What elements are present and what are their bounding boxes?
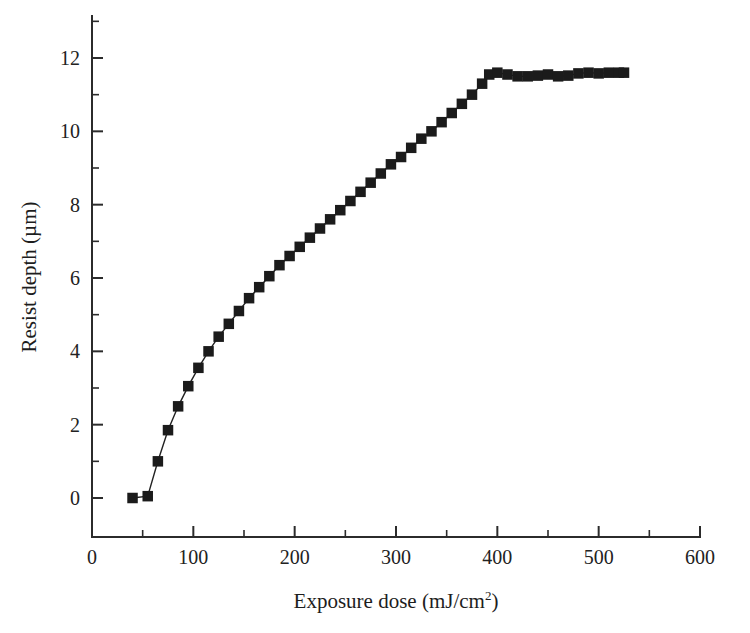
resist-depth-vs-exposure-dose-chart: 0100200300400500600 024681012 Exposure d… [0, 0, 750, 633]
data-point-marker [325, 214, 336, 225]
data-point-marker [294, 242, 305, 253]
series-markers [127, 67, 629, 503]
data-point-marker [492, 67, 503, 78]
data-point-marker [619, 67, 630, 78]
data-point-marker [284, 251, 295, 262]
data-point-marker [193, 363, 204, 374]
data-point-marker [406, 143, 417, 154]
x-tick-label: 500 [584, 546, 614, 568]
data-point-marker [457, 99, 468, 110]
x-tick-label: 100 [178, 546, 208, 568]
data-point-marker [543, 69, 554, 80]
data-point-marker [446, 108, 457, 119]
data-point-marker [563, 70, 574, 81]
x-tick-label: 400 [482, 546, 512, 568]
y-tick-label: 4 [70, 340, 80, 362]
data-point-marker [553, 71, 564, 82]
x-axis-title-suffix: ) [491, 589, 498, 613]
x-axis-ticks [92, 526, 700, 537]
x-axis-title-main: Exposure dose (mJ/cm [294, 589, 485, 613]
y-tick-label: 10 [60, 120, 80, 142]
x-tick-label: 300 [381, 546, 411, 568]
data-point-marker [583, 67, 594, 78]
data-point-marker [467, 89, 478, 100]
data-point-marker [127, 493, 138, 504]
data-point-marker [142, 491, 153, 502]
data-point-marker [573, 68, 584, 79]
y-tick-label: 2 [70, 414, 80, 436]
data-point-marker [213, 331, 224, 342]
y-tick-label: 6 [70, 267, 80, 289]
data-point-marker [502, 69, 512, 80]
data-point-marker [426, 126, 437, 137]
data-point-marker [345, 196, 356, 207]
x-axis-title: Exposure dose (mJ/cm2) [294, 588, 499, 613]
x-axis-tick-labels: 0100200300400500600 [87, 546, 715, 568]
data-point-marker [396, 152, 407, 163]
data-point-marker [436, 117, 447, 128]
data-point-marker [477, 78, 488, 89]
data-point-marker [254, 282, 265, 293]
x-tick-label: 600 [685, 546, 715, 568]
data-point-marker [183, 381, 194, 392]
data-point-marker [416, 133, 427, 144]
series-connector-line [133, 73, 624, 498]
data-point-marker [234, 306, 245, 317]
y-tick-label: 12 [60, 47, 80, 69]
data-series-group [127, 67, 629, 503]
data-point-marker [335, 205, 346, 216]
data-point-marker [153, 456, 164, 467]
data-point-marker [604, 67, 615, 78]
x-tick-label: 200 [280, 546, 310, 568]
data-point-marker [593, 68, 604, 79]
data-point-marker [305, 232, 316, 243]
data-point-marker [315, 223, 326, 234]
x-tick-label: 0 [87, 546, 97, 568]
y-tick-label: 8 [70, 194, 80, 216]
data-point-marker [173, 401, 184, 412]
data-point-marker [386, 159, 397, 170]
figure-container: 0100200300400500600 024681012 Exposure d… [0, 0, 750, 633]
data-point-marker [365, 177, 376, 188]
data-point-marker [163, 425, 174, 436]
data-point-marker [533, 70, 544, 81]
data-point-marker [224, 319, 235, 330]
axis-lines [92, 16, 700, 537]
data-point-marker [203, 346, 214, 357]
y-axis-title: Resist depth (µm) [17, 202, 41, 353]
data-point-marker [376, 168, 387, 179]
data-point-marker [264, 271, 275, 282]
y-axis-ticks [92, 21, 103, 498]
y-axis-tick-labels: 024681012 [60, 47, 80, 509]
data-point-marker [244, 293, 255, 304]
data-point-marker [355, 187, 366, 198]
data-point-marker [512, 71, 523, 82]
data-point-marker [522, 71, 533, 82]
y-tick-label: 0 [70, 487, 80, 509]
data-point-marker [274, 260, 285, 271]
